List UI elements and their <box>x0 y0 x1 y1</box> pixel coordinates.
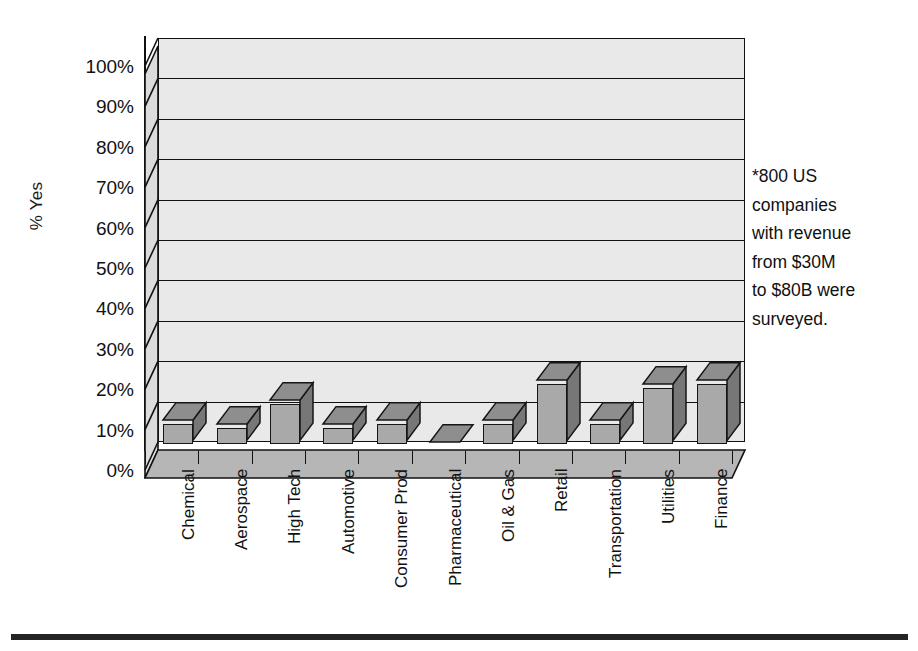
bar-3d-faces <box>430 414 477 448</box>
bar-3d-faces <box>537 352 584 445</box>
y-tick-label: 20% <box>60 380 134 399</box>
bar[interactable] <box>643 388 673 445</box>
x-tick-mark <box>679 451 680 464</box>
bar[interactable] <box>697 384 727 445</box>
x-tick-mark <box>145 451 146 464</box>
bar[interactable] <box>430 443 460 444</box>
annotation-line: to $80B were <box>752 276 902 305</box>
bar[interactable] <box>163 424 193 444</box>
bar[interactable] <box>377 424 407 444</box>
bar-3d-faces <box>270 372 317 444</box>
x-tick-mark <box>519 451 520 464</box>
annotation-line: from $30M <box>752 248 902 277</box>
x-tick-mark <box>412 451 413 464</box>
side-wall-gridline <box>145 361 158 389</box>
x-category-label: Consumer Prod <box>392 469 412 588</box>
bar-3d-faces <box>483 392 530 444</box>
x-tick-mark <box>358 451 359 464</box>
side-wall-gridline <box>145 240 158 268</box>
side-wall-gridline <box>145 159 158 187</box>
side-wall-gridline <box>145 38 158 66</box>
x-tick-mark <box>732 451 733 464</box>
x-tick-mark <box>198 451 199 464</box>
side-wall-gridline <box>145 402 158 430</box>
x-category-label: High Tech <box>285 469 305 544</box>
bar-3d-faces <box>643 356 690 445</box>
y-tick-label: 70% <box>60 178 134 197</box>
y-tick-label: 90% <box>60 97 134 116</box>
bar[interactable] <box>323 428 353 444</box>
x-category-label: Finance <box>712 469 732 529</box>
bar[interactable] <box>590 424 620 444</box>
x-tick-mark <box>465 451 466 464</box>
plot-area <box>145 30 745 455</box>
annotation-line: with revenue <box>752 219 902 248</box>
y-tick-label: 30% <box>60 339 134 358</box>
y-axis-ticks: 100%90%80%70%60%50%40%30%20%10%0% <box>60 0 134 651</box>
x-category-label: Pharmaceutical <box>446 469 466 586</box>
survey-annotation: *800 UScompanieswith revenuefrom $30Mto … <box>752 162 902 333</box>
bar-3d-faces <box>697 352 744 445</box>
y-tick-label: 0% <box>60 461 134 480</box>
bar[interactable] <box>537 384 567 445</box>
y-tick-label: 50% <box>60 259 134 278</box>
bar-3d-faces <box>323 396 370 444</box>
y-tick-label: 80% <box>60 137 134 156</box>
side-wall-gridline <box>145 78 158 106</box>
annotation-line: companies <box>752 191 902 220</box>
footer-rule <box>11 634 908 640</box>
x-category-label: Chemical <box>179 469 199 540</box>
side-wall-gridline <box>145 119 158 147</box>
x-category-label: Automotive <box>339 469 359 554</box>
y-tick-label: 100% <box>60 57 134 76</box>
x-category-label: Transportation <box>606 469 626 578</box>
bar[interactable] <box>217 428 247 444</box>
y-tick-label: 60% <box>60 218 134 237</box>
bar-3d-faces <box>163 392 210 444</box>
side-wall-gridline <box>145 200 158 228</box>
bar-3d-faces <box>217 396 264 444</box>
annotation-line: surveyed. <box>752 305 902 334</box>
x-tick-mark <box>252 451 253 464</box>
bar[interactable] <box>483 424 513 444</box>
side-wall-gridline <box>145 280 158 308</box>
y-tick-label: 10% <box>60 420 134 439</box>
bar-3d-faces <box>590 392 637 444</box>
y-tick-label: 40% <box>60 299 134 318</box>
x-tick-mark <box>625 451 626 464</box>
x-category-label: Oil & Gas <box>499 469 519 542</box>
side-wall-gridline <box>145 321 158 349</box>
bar-3d-faces <box>377 392 424 444</box>
bar[interactable] <box>270 404 300 444</box>
side-wall-gridline <box>145 442 158 470</box>
x-category-label: Retail <box>552 469 572 512</box>
bar-top-face <box>430 425 473 442</box>
annotation-line: *800 US <box>752 162 902 191</box>
bar-chart: % Yes 100%90%80%70%60%50%40%30%20%10%0% … <box>0 0 918 651</box>
x-tick-mark <box>572 451 573 464</box>
x-category-label: Aerospace <box>232 469 252 550</box>
x-tick-mark <box>305 451 306 464</box>
y-axis-title: % Yes <box>27 151 47 261</box>
x-category-label: Utilities <box>659 469 679 524</box>
